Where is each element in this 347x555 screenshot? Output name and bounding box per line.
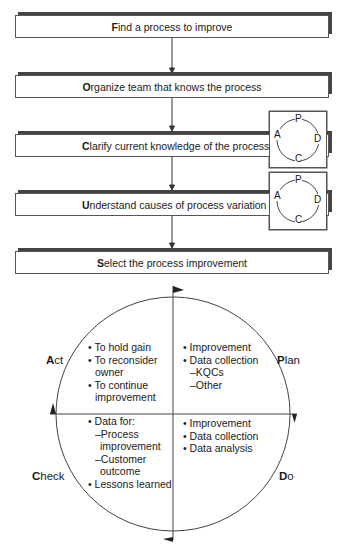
do-list: • Improvement • Data collection • Data a… <box>183 417 258 455</box>
step-organize: Organize team that knows the process <box>15 75 329 98</box>
label-act: Act <box>46 354 63 366</box>
label-plan: Plan <box>277 354 300 366</box>
plan-list: • Improvement • Data collection –KQCs –O… <box>183 341 258 391</box>
step-find: Find a process to improve <box>15 15 329 38</box>
step-select: Select the process improvement <box>15 251 329 274</box>
label-do: Do <box>279 470 294 482</box>
label-check: Check <box>32 470 65 482</box>
act-list: • To hold gain • To reconsider owner • T… <box>88 341 157 404</box>
mini-pdca-box-1: P D C A <box>269 111 327 168</box>
mini-pdca-box-2: P D C A <box>269 172 327 230</box>
pdca-circle <box>50 286 297 540</box>
check-list: • Data for: –Process improvement –Custom… <box>88 415 172 491</box>
